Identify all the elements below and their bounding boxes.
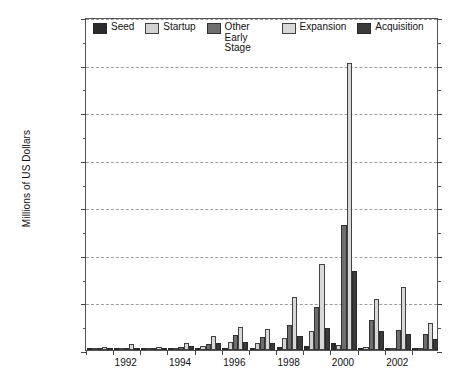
plot-area [85, 18, 438, 351]
y-axis-title: Millions of US Dollars [21, 89, 32, 269]
x-axis-tick [195, 350, 196, 355]
bar-group [385, 19, 412, 350]
legend-item[interactable]: Startup [145, 22, 195, 34]
bar-group [358, 19, 385, 350]
y-axis-tick [437, 352, 442, 353]
bar [189, 346, 194, 350]
legend-label: Seed [111, 22, 134, 33]
legend-swatch-icon [145, 23, 159, 34]
bar [216, 343, 221, 350]
legend-label: Other Early Stage [225, 22, 271, 54]
chart-figure: Millions of US Dollars SeedStartupOther … [0, 0, 449, 392]
x-axis-tick-label: 2002 [386, 357, 408, 368]
bar [379, 331, 384, 351]
x-axis-tick [86, 350, 87, 355]
chart-legend: SeedStartupOther Early StageExpansionAcq… [93, 22, 435, 54]
bar [134, 348, 139, 350]
legend-item[interactable]: Seed [93, 22, 134, 34]
x-axis-tick-label: 1994 [169, 357, 191, 368]
bar [352, 271, 357, 350]
legend-item[interactable]: Other Early Stage [207, 22, 271, 54]
bar-group [113, 19, 140, 350]
x-axis-tick [358, 350, 359, 355]
bar-group [303, 19, 330, 350]
x-axis-tick-label: 2000 [332, 357, 354, 368]
x-axis-tick-label: 1992 [115, 357, 137, 368]
x-axis-tick [412, 350, 413, 355]
bar-group [249, 19, 276, 350]
legend-swatch-icon [357, 23, 371, 34]
bar [270, 343, 275, 350]
x-axis-tick [303, 350, 304, 355]
bar [406, 334, 411, 350]
x-axis-tick [222, 350, 223, 355]
bar-group [412, 19, 439, 350]
bar [107, 348, 112, 350]
x-axis-tick [330, 350, 331, 355]
x-axis-tick-label: 1996 [223, 357, 245, 368]
legend-item[interactable]: Acquisition [357, 22, 423, 34]
legend-label: Acquisition [375, 22, 423, 33]
legend-label: Startup [163, 22, 195, 33]
bar-group [140, 19, 167, 350]
x-axis-tick [276, 350, 277, 355]
bar [297, 336, 302, 350]
x-axis-tick [140, 350, 141, 355]
x-axis-tick [167, 350, 168, 355]
legend-item[interactable]: Expansion [282, 22, 347, 34]
bar [433, 339, 438, 350]
legend-swatch-icon [282, 23, 296, 34]
bar-group [195, 19, 222, 350]
bar-group [330, 19, 357, 350]
bar [325, 328, 330, 350]
legend-swatch-icon [93, 23, 107, 34]
bar-group [276, 19, 303, 350]
x-axis-tick [113, 350, 114, 355]
x-axis-tick-label: 1998 [278, 357, 300, 368]
legend-label: Expansion [300, 22, 347, 33]
bar-group [222, 19, 249, 350]
x-axis-tick [385, 350, 386, 355]
bar [162, 348, 167, 350]
x-axis-tick [249, 350, 250, 355]
legend-swatch-icon [207, 23, 221, 34]
bar-group [167, 19, 194, 350]
bar [243, 342, 248, 350]
bar-group [86, 19, 113, 350]
